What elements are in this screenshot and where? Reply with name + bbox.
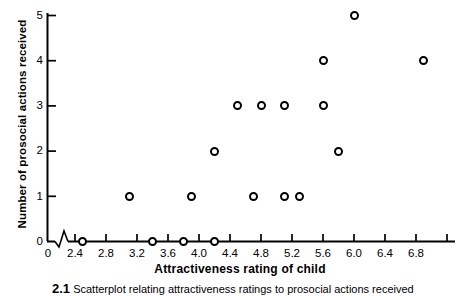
data-point: [280, 192, 289, 201]
x-tick-label: 4.8: [246, 247, 276, 259]
x-tick-label: 4.4: [215, 247, 245, 259]
x-tick-label: 3.2: [122, 247, 152, 259]
data-point: [257, 101, 266, 110]
figure-caption: 2.1 Scatterplot relating attractiveness …: [52, 281, 460, 296]
x-axis-ticks: [75, 234, 447, 242]
x-tick-label: 4.0: [184, 247, 214, 259]
y-tick-label: 3: [27, 99, 43, 111]
figure-caption-number: 2.1: [52, 281, 70, 296]
x-tick-label: 2.4: [60, 247, 90, 259]
data-point: [319, 56, 328, 65]
data-point: [210, 237, 219, 246]
x-tick-label: 6.0: [339, 247, 369, 259]
data-point: [210, 147, 219, 156]
y-axis-ticks: [48, 16, 57, 197]
x-axis-title: Attractiveness rating of child: [40, 262, 440, 276]
x-tick-label: 3.6: [153, 247, 183, 259]
x-tick-label: 5.6: [308, 247, 338, 259]
data-point: [148, 237, 157, 246]
y-tick-label: 5: [27, 9, 43, 21]
data-point: [179, 237, 188, 246]
y-tick-label: 2: [27, 144, 43, 156]
data-point: [334, 147, 343, 156]
x-tick-label: 5.2: [277, 247, 307, 259]
data-point: [187, 192, 196, 201]
x-origin-label: 0: [33, 247, 63, 259]
x-tick-label: 2.8: [91, 247, 121, 259]
y-tick-label: 1: [27, 190, 43, 202]
data-point: [350, 11, 359, 20]
figure-caption-text: Scatterplot relating attractiveness rati…: [73, 283, 414, 295]
data-point: [249, 192, 258, 201]
x-tick-label: 6.8: [401, 247, 431, 259]
y-tick-label: 0: [27, 235, 43, 247]
x-axis-break-zigzag: [55, 231, 68, 247]
data-point: [295, 192, 304, 201]
data-point: [125, 192, 134, 201]
data-point: [319, 101, 328, 110]
x-tick-label: 6.4: [370, 247, 400, 259]
y-tick-label: 4: [27, 54, 43, 66]
